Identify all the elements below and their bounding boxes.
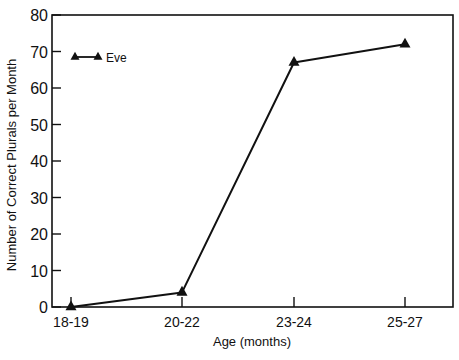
x-tick-label: 25-27	[387, 314, 423, 330]
y-tick-label: 40	[30, 153, 48, 170]
y-tick-label: 80	[30, 7, 48, 24]
triangle-marker-icon	[400, 38, 411, 48]
y-axis: 01020304050607080	[30, 7, 61, 316]
cropped-caption	[18, 352, 138, 360]
y-tick-label: 70	[30, 44, 48, 61]
y-tick-label: 10	[30, 263, 48, 280]
y-tick-label: 30	[30, 190, 48, 207]
y-tick-label: 50	[30, 117, 48, 134]
x-tick-label: 18-19	[53, 314, 89, 330]
y-tick-label: 0	[39, 299, 48, 316]
triangle-marker-icon	[177, 286, 188, 296]
y-axis-title: Number of Correct Plurals per Month	[4, 59, 19, 271]
series-line	[71, 44, 405, 307]
x-axis-title: Age (months)	[213, 334, 291, 349]
x-tick-label: 20-22	[164, 314, 200, 330]
triangle-marker-icon	[66, 300, 77, 310]
line-chart: 01020304050607080 18-1920-2223-2425-27 E…	[0, 0, 459, 360]
legend-label: Eve	[106, 51, 127, 65]
triangle-marker-icon	[71, 52, 80, 60]
y-tick-label: 20	[30, 226, 48, 243]
series-eve	[66, 38, 411, 311]
x-tick-label: 23-24	[276, 314, 312, 330]
legend: Eve	[71, 51, 128, 65]
y-tick-label: 60	[30, 80, 48, 97]
triangle-marker-icon	[94, 52, 103, 60]
chart: 01020304050607080 18-1920-2223-2425-27 E…	[0, 0, 459, 360]
